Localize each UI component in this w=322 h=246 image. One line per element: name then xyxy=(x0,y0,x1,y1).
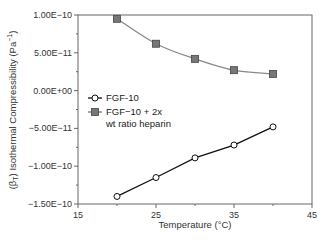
y-tick-label: −1.50E−10 xyxy=(28,199,72,209)
x-axis-title: Temperature (°C) xyxy=(159,219,232,230)
legend: FGF-10 FGF−10 + 2x wt ratio heparin xyxy=(88,92,171,129)
x-axis: 15253545 xyxy=(73,204,317,220)
y-tick-label: 0.00E+00 xyxy=(33,86,72,96)
x-tick-label: 15 xyxy=(73,210,83,220)
data-point xyxy=(192,155,198,161)
chart: 1.00E−105.00E−110.00E+00−5.00E−11−1.00E−… xyxy=(0,0,322,246)
data-point xyxy=(231,67,238,74)
circle-marker-icon xyxy=(92,95,98,101)
y-tick-label: 1.00E−10 xyxy=(33,10,72,20)
data-point xyxy=(114,193,120,199)
y-axis-title: (βT) Isothermal Compressibility (Pa−1) xyxy=(6,31,19,190)
data-point xyxy=(153,175,159,181)
data-point xyxy=(270,124,276,130)
y-axis: 1.00E−105.00E−110.00E+00−5.00E−11−1.00E−… xyxy=(28,10,78,209)
data-point xyxy=(231,142,237,148)
legend-item-heparin: FGF−10 + 2x xyxy=(106,106,162,117)
data-point xyxy=(114,15,121,22)
square-marker-icon xyxy=(92,109,99,116)
y-tick-label: −5.00E−11 xyxy=(29,123,72,133)
y-tick-label: 5.00E−11 xyxy=(34,48,72,58)
data-point xyxy=(270,70,277,77)
x-tick-label: 45 xyxy=(307,210,317,220)
legend-item-fgf10: FGF-10 xyxy=(106,92,139,103)
data-point xyxy=(153,40,160,47)
y-tick-label: −1.00E−10 xyxy=(28,161,72,171)
data-point xyxy=(192,55,199,62)
legend-item-heparin-line2: wt ratio heparin xyxy=(105,118,171,129)
